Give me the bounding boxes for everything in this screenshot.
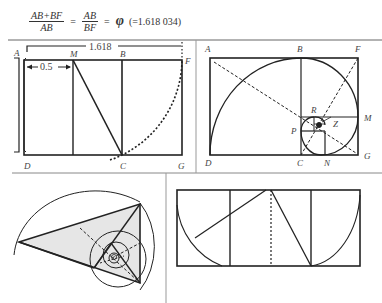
label-D-tr: D	[204, 158, 212, 168]
label-M-tl: M	[69, 49, 78, 59]
label-A-tl: A	[13, 48, 20, 58]
panel-top-right	[210, 58, 358, 155]
label-P-tr: P	[290, 126, 297, 136]
label-C-tl: C	[120, 161, 127, 171]
label-F-tr: F	[354, 44, 361, 54]
panel-bottom-left	[14, 191, 154, 290]
golden-ratio-diagrams: 1.618 0.5 A M B F D C G A B F M D C N	[0, 0, 382, 303]
label-D-tl: D	[23, 161, 31, 171]
label-M-tr: M	[363, 113, 372, 123]
panel-bottom-right	[177, 190, 360, 266]
label-A-tr: A	[204, 44, 211, 54]
panel-top-left	[14, 42, 182, 160]
label-G-tr: G	[364, 151, 371, 161]
label-R-tr: R	[310, 105, 317, 115]
label-B-tr: B	[297, 44, 303, 54]
label-N-tr: N	[323, 158, 331, 168]
label-F-tl: F	[184, 56, 191, 66]
label-G-tl: G	[178, 161, 185, 171]
label-Z-tr: Z	[333, 119, 339, 129]
dimension-05: 0.5	[40, 61, 53, 72]
label-B-tl: B	[120, 49, 126, 59]
label-C-tr: C	[297, 158, 304, 168]
dimension-1618: 1.618	[89, 41, 112, 52]
